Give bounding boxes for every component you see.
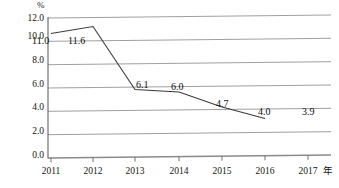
x-tick-label-2015: 2015 [204, 167, 240, 177]
y-axis-unit-label: % [37, 1, 45, 10]
x-axis-name-label: 年 [323, 167, 333, 177]
line-chart: % 10.0 12.0 8.0 6.0 4.0 2.0 0.0 2011 201… [0, 0, 339, 188]
x-tick-label-2014: 2014 [161, 167, 197, 177]
y-tick-label-12: 12.0 [8, 14, 44, 24]
x-axis-line [48, 155, 331, 158]
y-tick-label-2: 2.0 [8, 127, 44, 137]
data-label-2016: 4.0 [258, 107, 271, 117]
data-label-2011: 11.0 [32, 36, 49, 46]
y-tick-label-8: 8.0 [8, 56, 44, 66]
y-tick-label-0: 0.0 [8, 151, 44, 161]
x-tick-label-2016: 2016 [247, 167, 283, 177]
gridlines [48, 15, 331, 135]
x-tick-label-2012: 2012 [75, 167, 111, 177]
data-label-2015: 4.7 [216, 99, 229, 109]
data-label-2012: 11.6 [68, 36, 85, 46]
x-tick-label-2011: 2011 [33, 167, 69, 177]
x-tick-label-2013: 2013 [117, 167, 153, 177]
data-label-2014: 6.0 [171, 82, 184, 92]
x-tick-label-2017: 2017 [290, 167, 326, 177]
data-label-2013: 6.1 [136, 80, 149, 90]
y-tick-label-6: 6.0 [8, 80, 44, 90]
y-tick-label-4: 4.0 [8, 103, 44, 113]
data-label-2017: 3.9 [302, 107, 315, 117]
chart-plot-area [0, 0, 339, 188]
